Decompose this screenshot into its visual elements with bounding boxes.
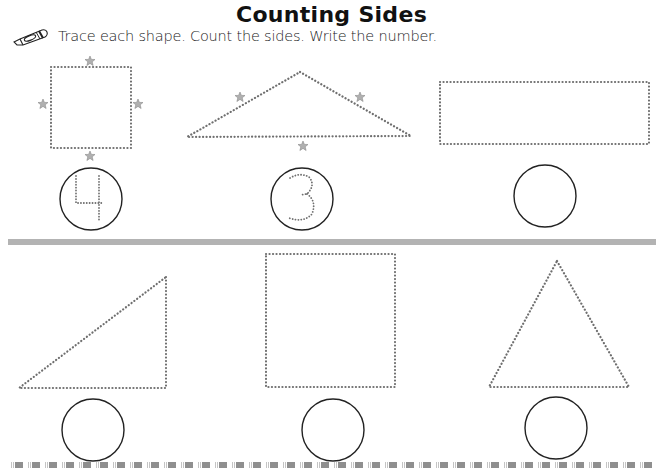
traceable-triangle-1[interactable] [187, 72, 411, 137]
row-divider [8, 239, 656, 245]
traceable-rectangle[interactable] [440, 82, 649, 144]
star-icon [85, 151, 95, 161]
answer-circle-3[interactable] [514, 165, 576, 227]
traced-digit-3 [289, 175, 314, 220]
answer-circle-4[interactable] [62, 399, 124, 461]
traced-digit-4 [76, 176, 103, 222]
answer-circle-2[interactable] [271, 168, 333, 230]
traceable-right-triangle[interactable] [19, 277, 166, 388]
star-icon [85, 56, 95, 66]
dashed-bottom-border [8, 462, 653, 468]
star-icon [133, 99, 143, 109]
traceable-square-1[interactable] [51, 67, 131, 148]
answer-circle-6[interactable] [525, 397, 587, 459]
star-icon [38, 99, 48, 109]
traceable-square-2[interactable] [266, 254, 395, 387]
worksheet-shapes [0, 0, 663, 474]
star-icon [298, 141, 308, 151]
traceable-triangle-2[interactable] [489, 261, 629, 387]
star-icon [355, 92, 365, 102]
answer-circle-5[interactable] [302, 399, 364, 461]
star-icon [235, 92, 245, 102]
answer-circle-1[interactable] [60, 168, 122, 230]
